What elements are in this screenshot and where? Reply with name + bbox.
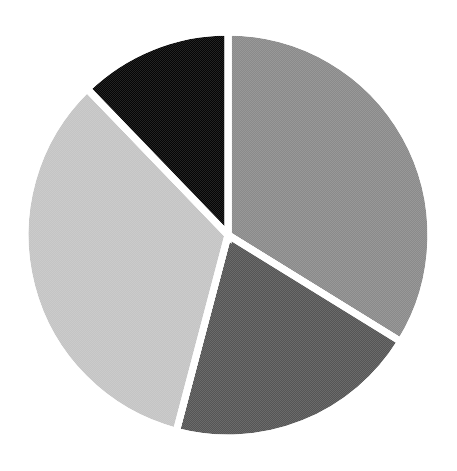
pie-slices <box>25 32 431 438</box>
pie-chart <box>0 0 457 471</box>
